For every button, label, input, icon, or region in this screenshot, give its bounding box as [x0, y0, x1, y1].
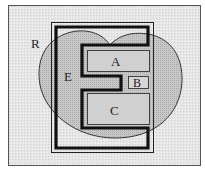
region-diagram: R E A B C	[0, 0, 205, 173]
label-b: B	[133, 76, 141, 90]
label-a: A	[111, 54, 121, 69]
label-r: R	[31, 36, 40, 51]
label-e: E	[64, 69, 72, 84]
label-c: C	[110, 103, 119, 118]
